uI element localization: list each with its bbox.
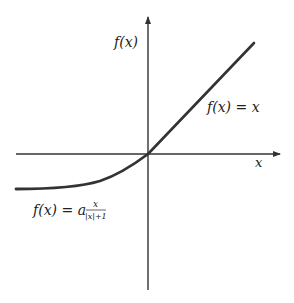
softsign-label-prefix: f(x) = a [32,202,86,218]
identity-label: f(x) = x [206,99,260,115]
activation-function-diagram: f(x) x f(x) = x f(x) = a x |x|+1 [0,0,294,303]
x-axis-label: x [255,155,263,170]
y-axis-label: f(x) [113,34,138,50]
softsign-label-denominator: |x|+1 [85,212,107,221]
softsign-label: f(x) = a x |x|+1 [32,199,107,221]
softsign-label-numerator: x [93,199,98,209]
softsign-curve [16,154,148,189]
